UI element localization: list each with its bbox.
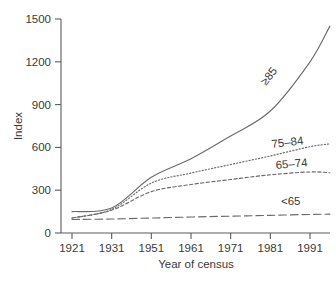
series-label-ge85: ≥85: [258, 65, 279, 87]
x-tick-label: 1951: [139, 242, 165, 254]
series-line-lt65: [72, 214, 330, 219]
y-tick-label: 1200: [25, 56, 51, 68]
series-line-ge85: [72, 26, 330, 212]
y-tick-label: 1500: [25, 13, 51, 25]
line-chart: 030060090012001500 192119311951196119711…: [0, 0, 336, 283]
x-tick-label: 1921: [59, 242, 85, 254]
x-tick-label: 1981: [258, 242, 284, 254]
y-tick-label: 0: [45, 227, 51, 239]
x-axis-title: Year of census: [158, 258, 234, 270]
y-tick-label: 600: [32, 141, 51, 153]
x-tick-label: 1991: [297, 242, 323, 254]
x-tick-label: 1961: [178, 242, 204, 254]
x-axis-ticks: 1921193119511961197119811991: [59, 233, 323, 254]
series-label-lt65: <65: [281, 195, 301, 207]
y-axis-title: Index: [12, 112, 24, 140]
x-tick-label: 1971: [218, 242, 244, 254]
series-label-75-84: 75–84: [271, 134, 305, 150]
y-tick-label: 300: [32, 184, 51, 196]
x-tick-label: 1931: [99, 242, 125, 254]
y-tick-label: 900: [32, 99, 51, 111]
series-label-65-74: 65–74: [275, 156, 309, 171]
y-axis-ticks: 030060090012001500: [25, 13, 61, 239]
chart-container: 030060090012001500 192119311951196119711…: [0, 0, 336, 283]
